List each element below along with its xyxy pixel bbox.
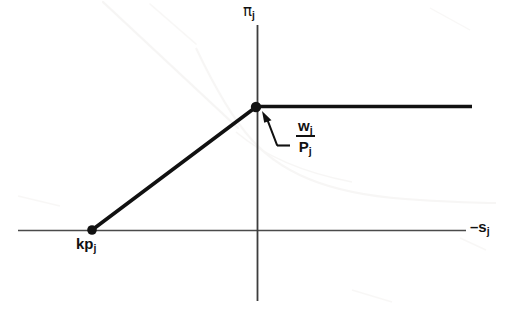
kink-point-marker	[251, 102, 261, 112]
kp-point-label: kpj	[76, 236, 96, 251]
callout-numerator-symbol: w	[298, 117, 310, 134]
y-axis-label-symbol: π	[243, 2, 252, 20]
profit-function-plot	[0, 0, 508, 319]
callout-denominator-subscript: j	[309, 145, 312, 157]
callout-denominator-symbol: P	[299, 138, 309, 155]
kp-point-label-subscript: j	[94, 242, 97, 254]
y-axis-label-subscript: j	[252, 10, 255, 21]
figure-canvas: πj –sj kpj wj Pj	[0, 0, 508, 319]
callout-numerator: wj	[296, 118, 315, 134]
kp-point-label-symbol: kp	[76, 235, 94, 252]
wage-price-ratio-callout: wj Pj	[296, 118, 315, 154]
callout-denominator: Pj	[296, 138, 315, 154]
x-axis-label: –sj	[470, 219, 490, 234]
kp-point-marker	[87, 225, 97, 235]
x-axis-label-subscript: j	[487, 225, 490, 237]
y-axis-label: πj	[243, 4, 255, 19]
x-axis-label-symbol: –s	[470, 218, 487, 235]
callout-numerator-subscript: j	[310, 124, 313, 136]
callout-arrow	[262, 111, 290, 146]
rising-segment	[92, 107, 256, 230]
